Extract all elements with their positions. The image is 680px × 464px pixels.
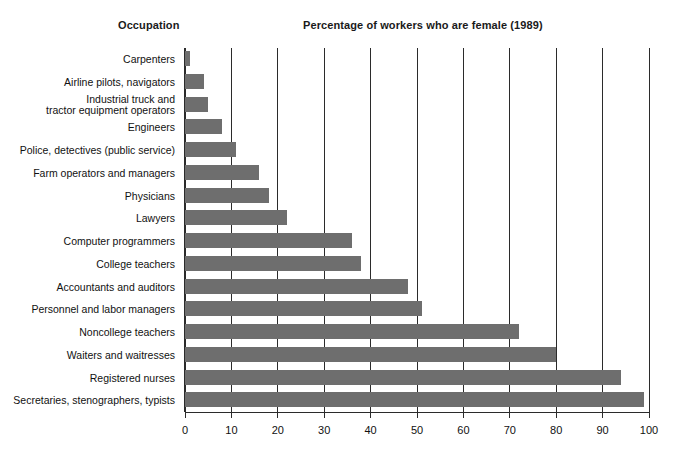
tick-label-80: 80 (550, 424, 562, 436)
bar-row-label: Farm operators and managers (33, 162, 175, 185)
bar-row[interactable]: Physicians (185, 185, 649, 208)
bar[interactable] (185, 142, 236, 157)
tick-mark-0 (185, 412, 186, 418)
bar[interactable] (185, 370, 621, 385)
bar-row-label: Engineers (128, 116, 175, 139)
bar-row-label: Accountants and auditors (57, 276, 176, 299)
bar[interactable] (185, 392, 644, 407)
bar-row[interactable]: Lawyers (185, 207, 649, 230)
occupation-column-header: Occupation (118, 19, 180, 31)
tick-mark-10 (231, 412, 232, 418)
tick-mark-60 (463, 412, 464, 418)
bar-row-label: Noncollege teachers (79, 321, 175, 344)
bar-row[interactable]: Accountants and auditors (185, 276, 649, 299)
plot-area: CarpentersAirline pilots, navigatorsIndu… (185, 48, 649, 412)
bar-row-label: Computer programmers (64, 230, 175, 253)
tick-mark-100 (649, 412, 650, 418)
bar-row[interactable]: Airline pilots, navigators (185, 71, 649, 94)
bar-row-label: Police, detectives (public service) (20, 139, 175, 162)
tick-label-100: 100 (640, 424, 658, 436)
bar[interactable] (185, 324, 519, 339)
bar[interactable] (185, 74, 204, 89)
bar-row[interactable]: Secretaries, stenographers, typists (185, 389, 649, 412)
bar-row[interactable]: Computer programmers (185, 230, 649, 253)
tick-label-20: 20 (272, 424, 284, 436)
bar-row[interactable]: Carpenters (185, 48, 649, 71)
tick-label-50: 50 (411, 424, 423, 436)
bar-row[interactable]: Personnel and labor managers (185, 298, 649, 321)
bar-row-label: Physicians (125, 185, 175, 208)
tick-label-0: 0 (182, 424, 188, 436)
bar-row[interactable]: Industrial truck andtractor equipment op… (185, 94, 649, 117)
tick-mark-90 (602, 412, 603, 418)
bar-row[interactable]: Engineers (185, 116, 649, 139)
tick-mark-50 (417, 412, 418, 418)
bar-row[interactable]: Registered nurses (185, 367, 649, 390)
bar[interactable] (185, 233, 352, 248)
bar-chart: Occupation Percentage of workers who are… (0, 0, 680, 464)
bar-row-label: Waiters and waitresses (67, 344, 175, 367)
bar-row-label: Industrial truck andtractor equipment op… (46, 94, 175, 117)
bar-row-label: Airline pilots, navigators (64, 71, 175, 94)
tick-label-40: 40 (364, 424, 376, 436)
tick-label-10: 10 (225, 424, 237, 436)
bar-row-label: Lawyers (136, 207, 175, 230)
bar-row[interactable]: College teachers (185, 253, 649, 276)
bar[interactable] (185, 188, 269, 203)
bar-row[interactable]: Noncollege teachers (185, 321, 649, 344)
tick-mark-80 (556, 412, 557, 418)
bar[interactable] (185, 165, 259, 180)
tick-label-70: 70 (504, 424, 516, 436)
bar[interactable] (185, 347, 556, 362)
bar[interactable] (185, 301, 422, 316)
tick-mark-20 (277, 412, 278, 418)
bar[interactable] (185, 97, 208, 112)
tick-label-90: 90 (596, 424, 608, 436)
bar[interactable] (185, 279, 408, 294)
tick-label-30: 30 (318, 424, 330, 436)
tick-mark-40 (370, 412, 371, 418)
bar-row-label: Registered nurses (90, 367, 175, 390)
tick-label-60: 60 (457, 424, 469, 436)
bar[interactable] (185, 256, 361, 271)
bar-row-label: Secretaries, stenographers, typists (13, 389, 175, 412)
tick-mark-70 (509, 412, 510, 418)
tick-mark-30 (324, 412, 325, 418)
bar-row[interactable]: Police, detectives (public service) (185, 139, 649, 162)
bar-row[interactable]: Farm operators and managers (185, 162, 649, 185)
bar-row-label-line2: tractor equipment operators (46, 105, 175, 117)
chart-title: Percentage of workers who are female (19… (303, 19, 543, 31)
bar-row[interactable]: Waiters and waitresses (185, 344, 649, 367)
bar-row-label: College teachers (96, 253, 175, 276)
bar[interactable] (185, 210, 287, 225)
bar[interactable] (185, 51, 190, 66)
bar-row-label: Personnel and labor managers (31, 298, 175, 321)
bar-row-label: Carpenters (123, 48, 175, 71)
bar[interactable] (185, 119, 222, 134)
